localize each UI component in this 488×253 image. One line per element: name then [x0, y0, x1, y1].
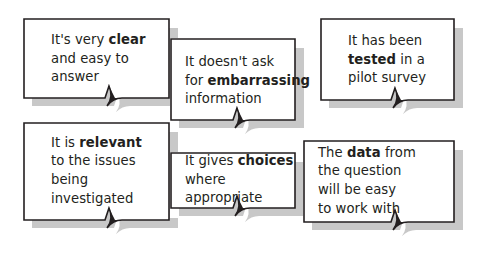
emphasis-word: tested — [348, 52, 396, 67]
bubble-text-line: It is relevant — [51, 134, 170, 153]
bubble-text-line: It gives choices — [185, 152, 296, 171]
bubble-data: The data fromthe questionwill be easyto … — [303, 140, 455, 232]
bubble-relevant: It is relevantto the issuesbeinginvestig… — [23, 122, 170, 230]
bubble-text-line: answer — [51, 68, 170, 87]
bubble-relevant-text: It is relevantto the issuesbeinginvestig… — [23, 122, 170, 230]
bubble-choices-text: It gives choiceswhereappropriate — [170, 152, 296, 218]
bubble-text-line: the question — [318, 162, 455, 181]
bubble-text-line: pilot survey — [348, 69, 455, 88]
emphasis-word: relevant — [79, 135, 142, 150]
bubble-text-line: to work with — [318, 200, 455, 219]
emphasis-word: embarrassing — [208, 73, 311, 88]
bubble-clear: It's very clearand easy toanswer — [23, 18, 170, 108]
bubble-text-line: and easy to — [51, 50, 170, 69]
bubble-data-text: The data fromthe questionwill be easyto … — [303, 140, 455, 232]
bubble-text-line: information — [185, 90, 296, 109]
bubble-text-line: It doesn't ask — [185, 53, 296, 72]
bubble-clear-text: It's very clearand easy toanswer — [23, 18, 170, 108]
bubble-text-line: It's very clear — [51, 31, 170, 50]
emphasis-word: data — [347, 145, 381, 160]
bubble-text-line: where — [185, 171, 296, 190]
bubble-choices: It gives choiceswhereappropriate — [170, 152, 296, 218]
bubble-text-line: appropriate — [185, 189, 296, 208]
bubble-text-line: investigated — [51, 190, 170, 209]
emphasis-word: clear — [109, 32, 146, 47]
bubble-text-line: to the issues — [51, 152, 170, 171]
bubble-text-line: The data from — [318, 144, 455, 163]
emphasis-word: choices — [238, 153, 294, 168]
bubble-embarrassing: It doesn't askfor embarrassinginformatio… — [170, 38, 296, 130]
bubble-text-line: It has been — [348, 32, 455, 51]
bubble-tested: It has beentested in apilot survey — [320, 18, 455, 110]
bubble-text-line: for embarrassing — [185, 72, 296, 91]
speech-bubble-diagram: It's very clearand easy toanswer It does… — [0, 0, 488, 253]
bubble-text-line: being — [51, 171, 170, 190]
bubble-embarrassing-text: It doesn't askfor embarrassinginformatio… — [170, 38, 296, 130]
bubble-text-line: will be easy — [318, 181, 455, 200]
bubble-tested-text: It has beentested in apilot survey — [320, 18, 455, 110]
bubble-text-line: tested in a — [348, 51, 455, 70]
